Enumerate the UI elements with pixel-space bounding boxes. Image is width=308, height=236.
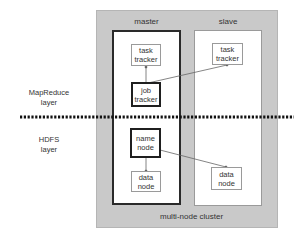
layer-name: HDFS bbox=[39, 135, 59, 144]
hdfs-layer-label: HDFS layer bbox=[14, 135, 84, 155]
layer-suffix: layer bbox=[41, 145, 57, 154]
layer-suffix: layer bbox=[41, 98, 57, 107]
mapreduce-layer-label: MapReduce layer bbox=[14, 88, 84, 108]
layer-divider bbox=[0, 0, 308, 236]
layer-name: MapReduce bbox=[29, 88, 69, 97]
